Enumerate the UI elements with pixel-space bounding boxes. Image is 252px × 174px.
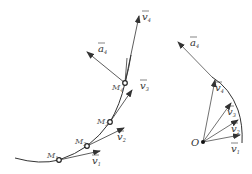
velocity-arrow-v3 <box>110 90 132 122</box>
svg-text:v1: v1 <box>92 155 101 167</box>
label-m3: M3 <box>96 117 108 127</box>
point-m4 <box>123 81 128 86</box>
svg-text:v3: v3 <box>140 80 149 92</box>
label-v3: v3 <box>140 80 149 92</box>
label-a4: a4 <box>98 43 107 55</box>
hodo-label-v1: v1 <box>231 143 240 155</box>
velocity-arrow-v4 <box>125 16 139 83</box>
acceleration-arrow-a4 <box>87 52 125 83</box>
svg-text:a4: a4 <box>98 43 107 55</box>
label-v1: v1 <box>92 155 101 167</box>
hodo-label-v4: v4 <box>215 82 224 94</box>
origin-point <box>201 140 205 144</box>
hodo-label-a4: a4 <box>190 37 199 49</box>
svg-text:v2: v2 <box>117 131 126 143</box>
label-origin: O <box>191 137 199 148</box>
hodograph-v4 <box>203 80 215 142</box>
label-v4: v4 <box>142 11 151 23</box>
hodo-label-v2: v2 <box>231 123 240 135</box>
velocity-hodograph-diagram: M1 M2 M3 M4 v1 v2 v3 v4 a4 <box>0 0 252 174</box>
hodo-label-v3: v3 <box>227 106 236 118</box>
svg-text:a4: a4 <box>190 37 199 49</box>
trajectory-curve <box>15 55 131 162</box>
label-m1: M1 <box>46 151 58 161</box>
label-v2: v2 <box>117 131 126 143</box>
svg-text:v1: v1 <box>231 143 240 155</box>
svg-text:v3: v3 <box>227 106 236 118</box>
label-m4: M4 <box>111 83 123 93</box>
hodograph-diagram: O v1 v2 v3 v4 a4 <box>178 37 242 155</box>
label-m2: M2 <box>74 137 86 147</box>
svg-text:v2: v2 <box>231 123 240 135</box>
svg-text:v4: v4 <box>142 11 151 23</box>
svg-text:v4: v4 <box>215 82 224 94</box>
trajectory-diagram: M1 M2 M3 M4 v1 v2 v3 v4 a4 <box>15 11 151 167</box>
